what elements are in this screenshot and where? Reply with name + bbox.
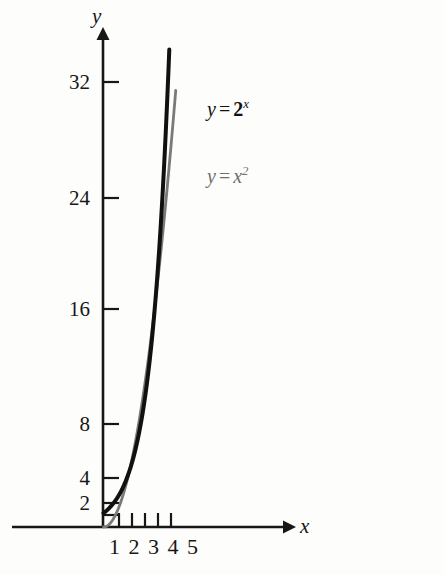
curve-two-to-the-x bbox=[104, 50, 170, 513]
curve-label-sq-y: y bbox=[207, 165, 216, 187]
y-tick-label-2: 2 bbox=[42, 493, 90, 514]
y-axis-label: y bbox=[92, 4, 101, 29]
y-tick-marks bbox=[103, 82, 119, 515]
curve-label-sq-base: x bbox=[233, 165, 242, 187]
y-tick-label-32: 32 bbox=[42, 72, 90, 93]
figure-canvas: 32 24 16 8 4 2 1 2 3 4 5 y x y=2x y=x2 bbox=[0, 0, 444, 574]
curve-label-exp-y: y bbox=[207, 98, 216, 120]
x-tick-labels: 1 2 3 4 5 bbox=[109, 534, 200, 560]
x-axis-label: x bbox=[300, 514, 309, 539]
y-tick-label-24: 24 bbox=[42, 188, 90, 209]
curve-label-two-to-the-x: y=2x bbox=[207, 98, 249, 121]
x-tick-marks bbox=[119, 513, 171, 527]
curve-label-x-squared: y=x2 bbox=[207, 165, 248, 188]
y-tick-label-8: 8 bbox=[42, 414, 90, 435]
curve-label-exp-base: 2 bbox=[233, 98, 243, 120]
curve-label-sq-exponent: 2 bbox=[242, 164, 248, 178]
curve-label-exp-equals: = bbox=[216, 98, 233, 120]
y-tick-label-4: 4 bbox=[42, 468, 90, 489]
curve-label-exp-exponent: x bbox=[243, 97, 249, 111]
x-axis-arrowhead bbox=[283, 521, 296, 534]
y-tick-label-16: 16 bbox=[42, 299, 90, 320]
curve-label-sq-equals: = bbox=[216, 165, 233, 187]
